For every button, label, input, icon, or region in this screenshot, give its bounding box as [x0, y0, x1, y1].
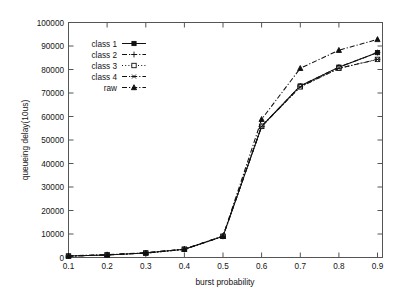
legend-label-class-4: class 4: [92, 73, 118, 82]
legend-sample-class-4: [122, 75, 146, 79]
legend-label-class-2: class 2: [92, 51, 118, 60]
legend-sample-class-3: [122, 63, 146, 67]
x-tick-label: 0.3: [140, 262, 152, 271]
queueing-delay-line-chart: 0 10000 20000 30000 40000 50000 60000 70…: [0, 0, 405, 297]
x-axis-title: burst probability: [195, 277, 255, 287]
data-point-open-square: [132, 63, 136, 67]
data-point-triangle: [298, 66, 303, 71]
data-point-triangle: [375, 37, 380, 42]
y-tick-label: 80000: [41, 66, 64, 75]
y-tick-label: 30000: [41, 183, 64, 192]
chart-figure: 0 10000 20000 30000 40000 50000 60000 70…: [0, 0, 405, 297]
series-line: [69, 39, 378, 255]
x-tick-label: 0.6: [256, 262, 268, 271]
chart-legend: class 1 class 2 class 3 class 4 raw: [92, 40, 146, 93]
x-tick-label: 0.9: [372, 262, 384, 271]
y-tick-label: 90000: [41, 42, 64, 51]
y-tick-label: 70000: [41, 89, 64, 98]
y-tick-label: 10000: [41, 230, 64, 239]
y-tick-label: 50000: [41, 136, 64, 145]
y-tick-label: 40000: [41, 160, 64, 169]
x-tick-label: 0.5: [217, 262, 229, 271]
data-point-filled-square: [132, 41, 136, 45]
y-tick-label: 60000: [41, 113, 64, 122]
data-point-star: [131, 75, 137, 79]
y-axis-tick-labels: 0 10000 20000 30000 40000 50000 60000 70…: [37, 19, 65, 263]
y-axis-title: queueing delay(10us): [20, 100, 30, 181]
y-tick-label: 20000: [41, 207, 64, 216]
legend-label-class-3: class 3: [92, 62, 118, 71]
x-tick-label: 0.7: [295, 262, 307, 271]
legend-label-raw: raw: [104, 84, 117, 93]
x-tick-label: 0.8: [333, 262, 345, 271]
x-axis-tick-labels: 0.1 0.2 0.3 0.4 0.5 0.6 0.7 0.8 0.9: [63, 262, 384, 271]
legend-sample-class-2: [122, 52, 146, 58]
y-tick-label: 100000: [37, 19, 65, 28]
x-tick-label: 0.1: [63, 262, 75, 271]
legend-sample-class-1: [122, 41, 146, 45]
x-tick-label: 0.4: [179, 262, 191, 271]
x-tick-label: 0.2: [101, 262, 113, 271]
legend-label-class-1: class 1: [92, 40, 118, 49]
legend-sample-lines: [122, 41, 146, 89]
legend-sample-raw: [122, 85, 146, 90]
data-point-plus: [131, 52, 137, 58]
